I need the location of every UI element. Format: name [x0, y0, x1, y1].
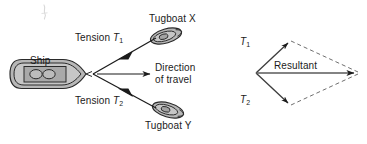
tension-2-label: Tension T2: [75, 95, 123, 107]
construction-line-lower: [291, 74, 358, 105]
tension-1-label: Tension T1: [75, 32, 123, 44]
ship-label: Ship: [30, 55, 50, 66]
figure-canvas: Ship Tension T1 Tension T2 Tugboat X Tug…: [0, 0, 367, 144]
vector-t2-label: T2: [240, 94, 250, 106]
direction-of-travel-label: Directionof travel: [155, 62, 195, 85]
ship-graphic: [10, 60, 92, 89]
tugboat-x-label: Tugboat X: [149, 13, 196, 24]
resultant-label: Resultant: [272, 60, 319, 71]
vector-t1-label: T1: [240, 36, 250, 48]
tugboat-y-label: Tugboat Y: [145, 120, 192, 131]
parallelogram-graphic: [256, 41, 358, 105]
vector-t2: [256, 73, 288, 103]
tugboat-x-graphic: [149, 25, 184, 47]
tugboat-y-graphic: [151, 99, 186, 121]
stray-pencil-mark: [42, 5, 48, 19]
